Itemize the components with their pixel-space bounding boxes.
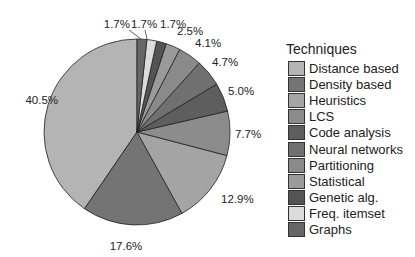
pie-label: 4.7% bbox=[212, 56, 238, 68]
legend-item: Code analysis bbox=[281, 125, 403, 141]
legend-label: Distance based bbox=[309, 61, 399, 76]
legend-title: Techniques bbox=[286, 41, 403, 57]
legend-label: Statistical bbox=[309, 174, 365, 189]
pie-label: 4.1% bbox=[195, 37, 221, 49]
leader-lines bbox=[129, 30, 147, 39]
pie-slices bbox=[44, 39, 230, 225]
legend-label: Genetic alg. bbox=[309, 190, 378, 205]
legend-swatch bbox=[288, 142, 305, 157]
legend-swatch bbox=[288, 190, 305, 205]
legend-label: Partitioning bbox=[309, 158, 374, 173]
legend-item: Distance based bbox=[281, 60, 403, 76]
legend-items: Distance basedDensity basedHeuristicsLCS… bbox=[281, 60, 403, 238]
leader-line bbox=[145, 30, 147, 39]
legend-label: Freq. itemset bbox=[309, 206, 385, 221]
legend-swatch bbox=[288, 206, 305, 221]
legend-swatch bbox=[288, 222, 305, 237]
legend-item: Partitioning bbox=[281, 157, 403, 173]
legend-item: Freq. itemset bbox=[281, 206, 403, 222]
legend-item: Graphs bbox=[281, 222, 403, 238]
pie-label: 40.5% bbox=[25, 94, 58, 106]
legend-item: Heuristics bbox=[281, 92, 403, 108]
legend-label: LCS bbox=[309, 109, 334, 124]
legend-swatch bbox=[288, 93, 305, 108]
pie-label: 1.7% bbox=[160, 18, 186, 30]
leader-line bbox=[129, 30, 141, 39]
pie-label: 7.7% bbox=[235, 128, 261, 140]
pie-label: 1.7% bbox=[104, 18, 130, 30]
pie-label: 17.6% bbox=[110, 240, 143, 252]
legend-item: Genetic alg. bbox=[281, 190, 403, 206]
legend-item: Statistical bbox=[281, 173, 403, 189]
legend-swatch bbox=[288, 61, 305, 76]
legend: Techniques Distance basedDensity basedHe… bbox=[281, 41, 403, 238]
pie-chart: 40.5%17.6%12.9%7.7%5.0%4.7%4.1%2.5%1.7%1… bbox=[0, 0, 270, 257]
legend-swatch bbox=[288, 174, 305, 189]
legend-swatch bbox=[288, 109, 305, 124]
legend-item: Density based bbox=[281, 76, 403, 92]
legend-label: Graphs bbox=[309, 222, 352, 237]
pie-label: 5.0% bbox=[228, 85, 254, 97]
legend-label: Heuristics bbox=[309, 93, 366, 108]
legend-label: Code analysis bbox=[309, 125, 391, 140]
pie-label: 12.9% bbox=[221, 193, 254, 205]
pie-label: 1.7% bbox=[131, 18, 157, 30]
legend-item: Neural networks bbox=[281, 141, 403, 157]
legend-label: Density based bbox=[309, 77, 391, 92]
legend-label: Neural networks bbox=[309, 142, 403, 157]
legend-swatch bbox=[288, 77, 305, 92]
legend-swatch bbox=[288, 125, 305, 140]
legend-swatch bbox=[288, 158, 305, 173]
legend-item: LCS bbox=[281, 109, 403, 125]
